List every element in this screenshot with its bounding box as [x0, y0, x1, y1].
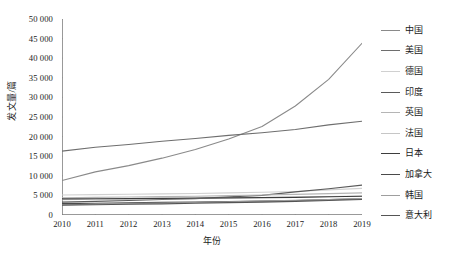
- y-tick-label: 30 000: [29, 93, 53, 102]
- y-tick-label: 0: [49, 211, 53, 220]
- legend-item-2[interactable]: 德国: [381, 61, 463, 82]
- x-tick-label: 2014: [187, 220, 205, 229]
- x-tick-label: 2019: [353, 220, 371, 229]
- legend-label: 加拿大: [405, 170, 433, 179]
- y-tick-label: 45 000: [29, 34, 53, 43]
- legend-label: 韩国: [405, 191, 423, 200]
- y-axis-tick-labels: 05 00010 00015 00020 00025 00030 00035 0…: [0, 19, 58, 215]
- legend-swatch-icon: [381, 50, 400, 51]
- legend-swatch-icon: [381, 112, 400, 113]
- y-tick-label: 40 000: [29, 54, 53, 63]
- x-axis-tick-labels: 2010201120122013201420152016201720182019: [62, 220, 362, 234]
- legend-label: 英国: [405, 108, 423, 117]
- legend-swatch-icon: [381, 215, 400, 216]
- y-tick-label: 5 000: [33, 191, 53, 200]
- legend-label: 印度: [405, 88, 423, 97]
- legend: 中国美国德国印度英国法国日本加拿大韩国意大利: [381, 20, 463, 226]
- legend-item-6[interactable]: 日本: [381, 144, 463, 165]
- line-chart: 发文量/篇 05 00010 00015 00020 00025 00030 0…: [0, 0, 463, 265]
- legend-swatch-icon: [381, 92, 400, 93]
- legend-item-1[interactable]: 美国: [381, 41, 463, 62]
- y-tick-label: 35 000: [29, 74, 53, 83]
- legend-item-8[interactable]: 韩国: [381, 185, 463, 206]
- y-tick-label: 50 000: [29, 15, 53, 24]
- legend-swatch-icon: [381, 30, 400, 31]
- x-tick-label: 2011: [87, 220, 104, 229]
- legend-swatch-icon: [381, 174, 400, 175]
- legend-item-0[interactable]: 中国: [381, 20, 463, 41]
- plot-svg: [62, 19, 362, 215]
- x-tick-label: 2018: [320, 220, 338, 229]
- x-axis-title: 年份: [62, 234, 362, 247]
- legend-label: 德国: [405, 67, 423, 76]
- legend-item-5[interactable]: 法国: [381, 123, 463, 144]
- y-tick-label: 15 000: [29, 152, 53, 161]
- legend-swatch-icon: [381, 195, 400, 196]
- legend-label: 美国: [405, 46, 423, 55]
- x-tick-label: 2015: [220, 220, 238, 229]
- plot-area: [62, 19, 362, 215]
- legend-label: 意大利: [405, 211, 433, 220]
- x-tick-label: 2013: [153, 220, 171, 229]
- legend-swatch-icon: [381, 153, 400, 154]
- x-tick-label: 2016: [253, 220, 271, 229]
- legend-label: 中国: [405, 26, 423, 35]
- series-line-9: [62, 200, 362, 206]
- x-tick-label: 2012: [120, 220, 138, 229]
- axes-group: [62, 19, 362, 215]
- legend-label: 日本: [405, 149, 423, 158]
- legend-label: 法国: [405, 129, 423, 138]
- legend-item-3[interactable]: 印度: [381, 82, 463, 103]
- y-tick-label: 25 000: [29, 113, 53, 122]
- series-line-1: [62, 121, 362, 151]
- legend-item-9[interactable]: 意大利: [381, 205, 463, 226]
- legend-swatch-icon: [381, 71, 400, 72]
- y-tick-label: 20 000: [29, 132, 53, 141]
- legend-item-4[interactable]: 英国: [381, 102, 463, 123]
- x-tick-label: 2017: [287, 220, 305, 229]
- series-group: [62, 43, 362, 205]
- legend-item-7[interactable]: 加拿大: [381, 164, 463, 185]
- legend-swatch-icon: [381, 133, 400, 134]
- series-line-0: [62, 43, 362, 180]
- x-tick-label: 2010: [53, 220, 71, 229]
- y-tick-label: 10 000: [29, 172, 53, 181]
